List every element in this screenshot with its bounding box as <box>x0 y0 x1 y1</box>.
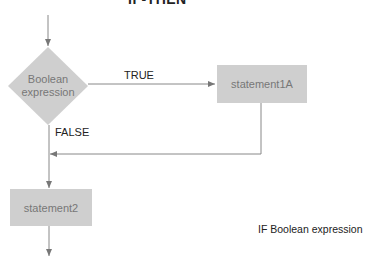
statement1a-box: statement1A <box>217 65 307 103</box>
decision-label-line2: expression <box>12 86 84 99</box>
statement2-box: statement2 <box>10 189 92 226</box>
flowchart-canvas: IF-THEN Boolean expression TRUE FALSE st… <box>0 0 371 257</box>
decision-label: Boolean expression <box>12 73 84 99</box>
decision-label-line1: Boolean <box>12 73 84 86</box>
statement2-label: statement2 <box>24 202 78 214</box>
true-label: TRUE <box>124 69 154 81</box>
pseudocode-line-1: IF Boolean expression <box>258 223 362 235</box>
statement1a-label: statement1A <box>231 78 293 90</box>
false-label: FALSE <box>55 126 89 138</box>
pseudocode-block: IF Boolean expression THEN statement1A; … <box>258 199 362 257</box>
